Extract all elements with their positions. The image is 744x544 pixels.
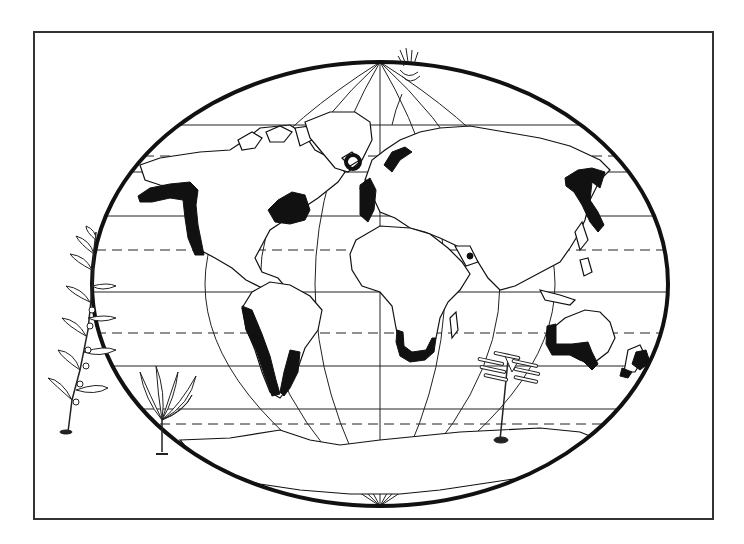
world-map-figure — [0, 0, 744, 544]
